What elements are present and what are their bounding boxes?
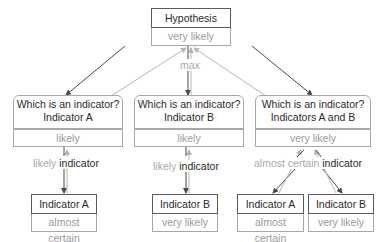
question-answer: Indicators A and B [258, 111, 368, 124]
question-text: Which is an indicator? [137, 98, 241, 111]
node-hypothesis[interactable]: Hypothesis very likely [151, 8, 231, 46]
question-text: Which is an indicator? [16, 98, 120, 111]
edge-qualifier: likely [33, 157, 56, 169]
node-title: Indicator B [308, 194, 374, 214]
node-value: likely [134, 129, 244, 147]
node-question-b[interactable]: Which is an indicator? Indicator B likel… [134, 95, 244, 147]
agg-q3-to-root [194, 48, 266, 96]
edge-label-b: likely indicator [152, 160, 220, 172]
node-value: very likely [151, 28, 231, 46]
edge-root-to-q3 [252, 46, 312, 95]
agg-q1-to-root [111, 48, 186, 96]
edge-label-a: likely indicator [32, 157, 100, 169]
question-header: Which is an indicator? Indicator B [134, 95, 244, 129]
edge-qualifier: almost certain [254, 157, 319, 169]
node-title: Indicator A [31, 194, 97, 214]
node-question-a[interactable]: Which is an indicator? Indicator A likel… [13, 95, 123, 147]
node-title: Indicator B [152, 194, 218, 214]
edge-root-to-q1 [66, 46, 125, 95]
question-header: Which is an indicator? Indicators A and … [255, 95, 371, 129]
edge-qualifier: likely [153, 160, 176, 172]
node-value: likely [13, 129, 123, 147]
node-leaf-ab-indicator-a[interactable]: Indicator A almost certain [237, 194, 304, 232]
edge-label-ab: almost certain indicator [253, 157, 363, 169]
edge-keyword: indicator [179, 160, 219, 172]
question-header: Which is an indicator? Indicator A [13, 95, 123, 129]
node-value: almost certain [237, 214, 304, 232]
node-leaf-indicator-a[interactable]: Indicator A almost certain [31, 194, 97, 232]
node-title: Indicator A [237, 194, 304, 214]
node-value: very likely [152, 214, 218, 232]
question-text: Which is an indicator? [258, 98, 368, 111]
node-title: Hypothesis [151, 8, 231, 28]
edge-keyword: indicator [322, 157, 362, 169]
edge-keyword: indicator [59, 157, 99, 169]
node-value: very likely [308, 214, 374, 232]
question-answer: Indicator B [137, 111, 241, 124]
node-value: very likely [255, 129, 371, 147]
node-question-ab[interactable]: Which is an indicator? Indicators A and … [255, 95, 371, 147]
aggregation-label: max [180, 59, 200, 71]
node-leaf-ab-indicator-b[interactable]: Indicator B very likely [308, 194, 374, 232]
question-answer: Indicator A [16, 111, 120, 124]
node-value: almost certain [31, 214, 97, 232]
node-leaf-indicator-b[interactable]: Indicator B very likely [152, 194, 218, 232]
